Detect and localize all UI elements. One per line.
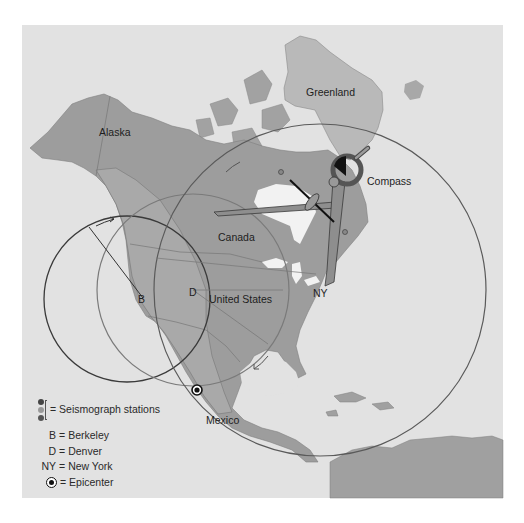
label-canada: Canada	[218, 231, 255, 243]
legend-equals: =	[59, 428, 65, 444]
legend-stations-label: = Seismograph stations	[50, 402, 160, 418]
legend-key: NY	[24, 459, 56, 475]
label-alaska: Alaska	[99, 126, 131, 138]
station-denver-marker: D	[189, 286, 197, 298]
seismograph-stations-icon	[37, 399, 47, 421]
legend: = Seismograph stations B = Berkeley D = …	[24, 398, 160, 490]
compass-pivot	[329, 177, 339, 187]
label-united-states: United States	[209, 293, 272, 305]
legend-label: Berkeley	[68, 428, 109, 444]
legend-item-epicenter: = Epicenter	[24, 475, 160, 491]
legend-label: New York	[68, 459, 112, 475]
label-compass: Compass	[367, 175, 411, 187]
legend-item-newyork: NY = New York	[24, 459, 160, 475]
station-berkeley-marker: B	[138, 293, 145, 305]
station-newyork-marker: NY	[313, 287, 328, 299]
legend-label: Denver	[68, 444, 102, 460]
legend-equals: =	[59, 444, 65, 460]
compass-screw-2	[343, 230, 348, 235]
legend-stations-row: = Seismograph stations	[24, 398, 160, 422]
label-greenland: Greenland	[306, 86, 355, 98]
epicenter-icon	[46, 477, 57, 488]
legend-key: D	[24, 444, 56, 460]
compass-screw-1	[279, 170, 284, 175]
legend-item-denver: D = Denver	[24, 444, 160, 460]
legend-equals: =	[59, 459, 65, 475]
legend-epicenter-label: = Epicenter	[60, 475, 113, 491]
label-mexico: Mexico	[206, 414, 239, 426]
epicenter-marker-dot	[194, 387, 199, 392]
legend-item-berkeley: B = Berkeley	[24, 428, 160, 444]
legend-key: B	[24, 428, 56, 444]
